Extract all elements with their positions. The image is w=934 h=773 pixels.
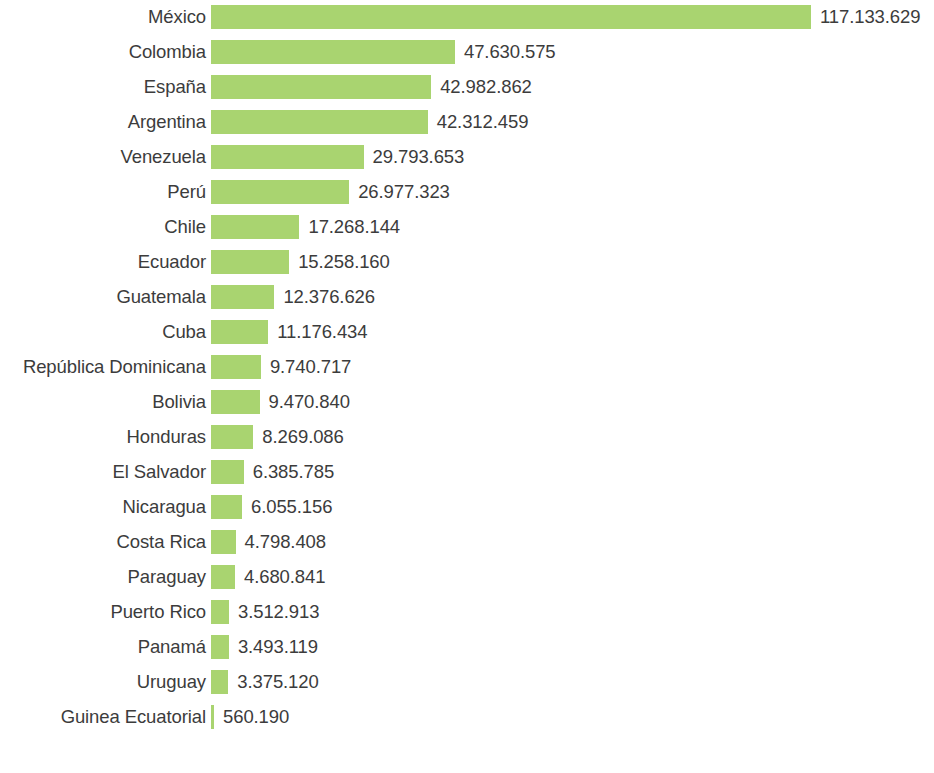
bar [211, 460, 244, 484]
value-label: 15.258.160 [289, 250, 390, 274]
bar [211, 250, 289, 274]
bar [211, 530, 236, 554]
bar [211, 215, 299, 239]
category-label: Panamá [0, 635, 211, 659]
bar [211, 355, 261, 379]
bar-row: Paraguay4.680.841 [0, 565, 934, 589]
category-label: El Salvador [0, 460, 211, 484]
category-label: Paraguay [0, 565, 211, 589]
bar [211, 75, 431, 99]
value-label: 11.176.434 [268, 320, 367, 344]
bar-zone: 17.268.144 [211, 215, 934, 239]
bar-zone: 29.793.653 [211, 145, 934, 169]
value-label: 3.493.119 [229, 635, 318, 659]
bar-zone: 9.740.717 [211, 355, 934, 379]
bar [211, 40, 455, 64]
bar-row: Cuba11.176.434 [0, 320, 934, 344]
category-label: Perú [0, 180, 211, 204]
bar-row: Guatemala12.376.626 [0, 285, 934, 309]
bar-zone: 8.269.086 [211, 425, 934, 449]
bar-zone: 6.385.785 [211, 460, 934, 484]
value-label: 17.268.144 [299, 215, 400, 239]
bar-zone: 26.977.323 [211, 180, 934, 204]
value-label: 12.376.626 [274, 285, 375, 309]
category-label: Bolivia [0, 390, 211, 414]
bar-zone: 4.680.841 [211, 565, 934, 589]
category-label: Ecuador [0, 250, 211, 274]
category-label: Guinea Ecuatorial [0, 705, 211, 729]
category-label: Venezuela [0, 145, 211, 169]
category-label: Cuba [0, 320, 211, 344]
value-label: 42.982.862 [431, 75, 532, 99]
bar [211, 425, 253, 449]
bar-zone: 3.375.120 [211, 670, 934, 694]
bar-row: Honduras8.269.086 [0, 425, 934, 449]
category-label: México [0, 5, 211, 29]
category-label: Guatemala [0, 285, 211, 309]
bar-row: Costa Rica4.798.408 [0, 530, 934, 554]
category-label: Costa Rica [0, 530, 211, 554]
bar-row: Ecuador15.258.160 [0, 250, 934, 274]
value-label: 117.133.629 [811, 5, 920, 29]
value-label: 4.680.841 [235, 565, 325, 589]
bar [211, 390, 260, 414]
value-label: 42.312.459 [428, 110, 529, 134]
bar-row: Uruguay3.375.120 [0, 670, 934, 694]
bar-zone: 3.512.913 [211, 600, 934, 624]
bar-row: Colombia47.630.575 [0, 40, 934, 64]
value-label: 6.055.156 [242, 495, 332, 519]
bar-zone: 42.982.862 [211, 75, 934, 99]
bar [211, 600, 229, 624]
bar [211, 180, 349, 204]
value-label: 4.798.408 [236, 530, 326, 554]
value-label: 560.190 [214, 705, 289, 729]
category-label: Honduras [0, 425, 211, 449]
bar [211, 145, 364, 169]
bar-zone: 3.493.119 [211, 635, 934, 659]
category-label: Uruguay [0, 670, 211, 694]
bar-row: Nicaragua6.055.156 [0, 495, 934, 519]
bar-row: Chile17.268.144 [0, 215, 934, 239]
horizontal-bar-chart: México117.133.629Colombia47.630.575Españ… [0, 0, 934, 773]
value-label: 3.512.913 [229, 600, 319, 624]
bar-zone: 117.133.629 [211, 5, 934, 29]
bar-zone: 9.470.840 [211, 390, 934, 414]
value-label: 6.385.785 [244, 460, 334, 484]
bar-zone: 6.055.156 [211, 495, 934, 519]
value-label: 9.740.717 [261, 355, 351, 379]
category-label: Nicaragua [0, 495, 211, 519]
bar-zone: 4.798.408 [211, 530, 934, 554]
bar-row: El Salvador6.385.785 [0, 460, 934, 484]
value-label: 9.470.840 [260, 390, 350, 414]
bar-zone: 47.630.575 [211, 40, 934, 64]
category-label: Puerto Rico [0, 600, 211, 624]
bar-zone: 42.312.459 [211, 110, 934, 134]
bar-zone: 560.190 [211, 705, 934, 729]
bar-row: Venezuela29.793.653 [0, 145, 934, 169]
bar-row: Argentina42.312.459 [0, 110, 934, 134]
bar-row: Guinea Ecuatorial560.190 [0, 705, 934, 729]
bar [211, 285, 274, 309]
category-label: España [0, 75, 211, 99]
bar [211, 320, 268, 344]
bar [211, 670, 228, 694]
bar-row: Panamá3.493.119 [0, 635, 934, 659]
bar-zone: 12.376.626 [211, 285, 934, 309]
bar-rows-container: México117.133.629Colombia47.630.575Españ… [0, 5, 934, 729]
bar-row: España42.982.862 [0, 75, 934, 99]
bar-zone: 11.176.434 [211, 320, 934, 344]
bar-row: Perú26.977.323 [0, 180, 934, 204]
category-label: Chile [0, 215, 211, 239]
bar [211, 495, 242, 519]
bar-row: Puerto Rico3.512.913 [0, 600, 934, 624]
bar [211, 635, 229, 659]
category-label: Colombia [0, 40, 211, 64]
bar [211, 5, 811, 29]
value-label: 29.793.653 [364, 145, 465, 169]
bar-row: Bolivia9.470.840 [0, 390, 934, 414]
value-label: 26.977.323 [349, 180, 450, 204]
category-label: Argentina [0, 110, 211, 134]
value-label: 47.630.575 [455, 40, 556, 64]
value-label: 3.375.120 [228, 670, 318, 694]
value-label: 8.269.086 [253, 425, 343, 449]
